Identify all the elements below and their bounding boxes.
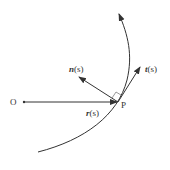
curve [38, 14, 130, 152]
position-arg: (s) [90, 108, 100, 118]
tangent-arg: (s) [148, 64, 158, 74]
point-label: P [121, 100, 126, 110]
position-label: r(s) [86, 108, 99, 118]
origin-label: O [10, 97, 17, 107]
normal-vector-arrow [79, 77, 118, 102]
right-angle-mark [112, 92, 121, 98]
normal-arg: (s) [74, 64, 84, 74]
normal-label: n(s) [69, 64, 84, 74]
tangent-label: t(s) [145, 64, 157, 74]
curve-frame-diagram: O P n(s) t(s) r(s) [0, 0, 170, 170]
